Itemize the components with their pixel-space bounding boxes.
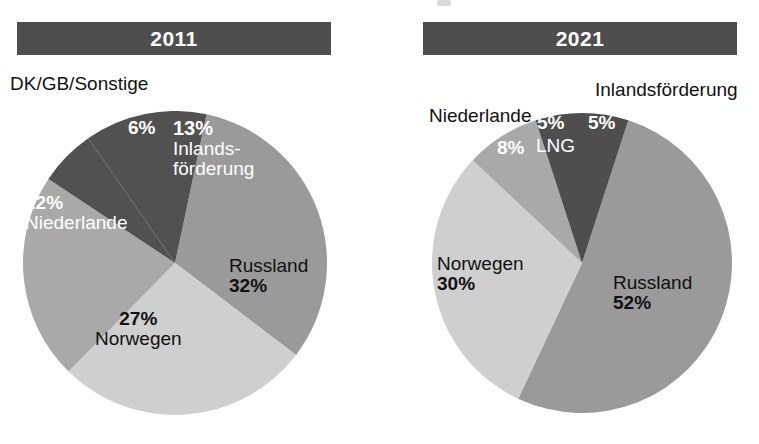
label-niederlande-name-2021: Niederlande (429, 106, 531, 126)
label-lng-name-2021: LNG (536, 136, 575, 156)
cropped-headline-artifact (437, 0, 451, 6)
label-dkgb-percent-2011: 6% (128, 118, 155, 138)
label-norwegen-name-2011: Norwegen (95, 329, 182, 349)
label-inlandsfoerderung-percent-2011: 13% (173, 118, 254, 139)
label-russland-2021: Russland 52% (613, 273, 692, 313)
label-niederlande-2011: 22% Niederlande (25, 193, 127, 233)
label-inlandsfoerderung-name-2021: Inlandsförderung (595, 80, 738, 100)
year-title-bar-2011: 2011 (17, 22, 331, 55)
label-niederlande-percent-2011: 22% (25, 193, 127, 213)
year-title-bar-2021: 2021 (423, 22, 737, 55)
label-niederlande-percent-2021: 8% (497, 138, 524, 158)
label-dkgb-sonstige-2011: DK/GB/Sonstige (10, 74, 148, 94)
label-norwegen-2011: 27% Norwegen (95, 309, 182, 349)
label-norwegen-percent-2021: 30% (437, 274, 524, 294)
label-russland-name-2011: Russland (229, 256, 308, 276)
chart-canvas: 2011 DK/GB/Sonstige 6% 13% Inlands- förd… (0, 0, 759, 444)
label-russland-percent-2021: 52% (613, 293, 692, 313)
year-label-2011: 2011 (150, 27, 198, 51)
label-inlandsfoerderung-name-line1-2011: Inlands- (173, 139, 254, 159)
label-russland-2011: Russland 32% (229, 256, 308, 296)
label-norwegen-percent-2011: 27% (95, 309, 182, 329)
label-russland-name-2021: Russland (613, 273, 692, 293)
label-norwegen-2021: Norwegen 30% (437, 254, 524, 294)
label-norwegen-name-2021: Norwegen (437, 254, 524, 274)
label-niederlande-name-2011: Niederlande (25, 213, 127, 233)
label-lng-percent-2021: 5% (537, 113, 564, 133)
label-inlandsfoerderung-2011: 13% Inlands- förderung (173, 118, 254, 179)
label-russland-percent-2011: 32% (229, 276, 308, 296)
label-inlandsfoerderung-percent-2021: 5% (588, 113, 615, 133)
year-label-2021: 2021 (556, 27, 605, 51)
label-inlandsfoerderung-name-line2-2011: förderung (173, 159, 254, 179)
